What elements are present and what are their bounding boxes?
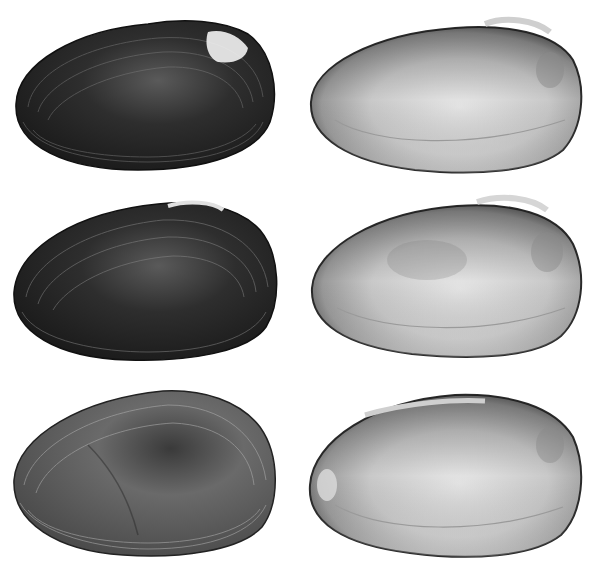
shell-interior-3	[305, 385, 585, 560]
shell-interior-2	[307, 190, 587, 360]
shell-exterior-3	[8, 385, 283, 560]
shell-interior-1	[305, 10, 587, 176]
shell-exterior-2	[8, 192, 283, 364]
shell-exterior-1	[8, 12, 280, 174]
shell-plate	[0, 0, 595, 569]
